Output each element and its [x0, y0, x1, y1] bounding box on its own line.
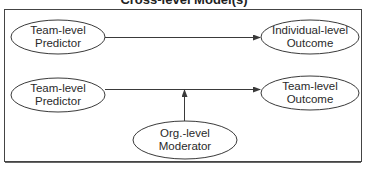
node-label-team-predictor-2: Team-level Predictor	[30, 82, 86, 108]
label-line: Predictor	[30, 37, 86, 50]
label-line: Predictor	[30, 95, 86, 108]
label-line: Team-level	[282, 80, 338, 93]
label-line: Moderator	[159, 140, 211, 153]
label-line: Outcome	[282, 93, 338, 106]
node-label-individual-outcome: Individual-level Outcome	[272, 24, 348, 50]
node-label-team-predictor-1: Team-level Predictor	[30, 24, 86, 50]
node-label-org-moderator: Org.-level Moderator	[159, 127, 211, 153]
label-line: Org.-level	[159, 127, 211, 140]
label-line: Individual-level	[272, 24, 348, 37]
node-label-team-outcome: Team-level Outcome	[282, 80, 338, 106]
label-line: Team-level	[30, 24, 86, 37]
label-line: Outcome	[272, 37, 348, 50]
label-line: Team-level	[30, 82, 86, 95]
